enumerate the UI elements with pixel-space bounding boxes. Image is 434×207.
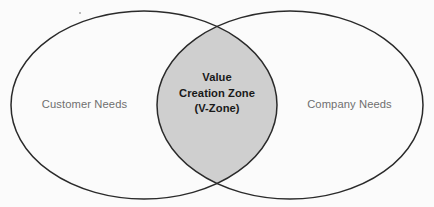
venn-diagram-canvas bbox=[0, 0, 434, 207]
venn-diagram: Customer Needs Company Needs Value Creat… bbox=[0, 0, 434, 207]
overlap-region bbox=[157, 11, 423, 199]
